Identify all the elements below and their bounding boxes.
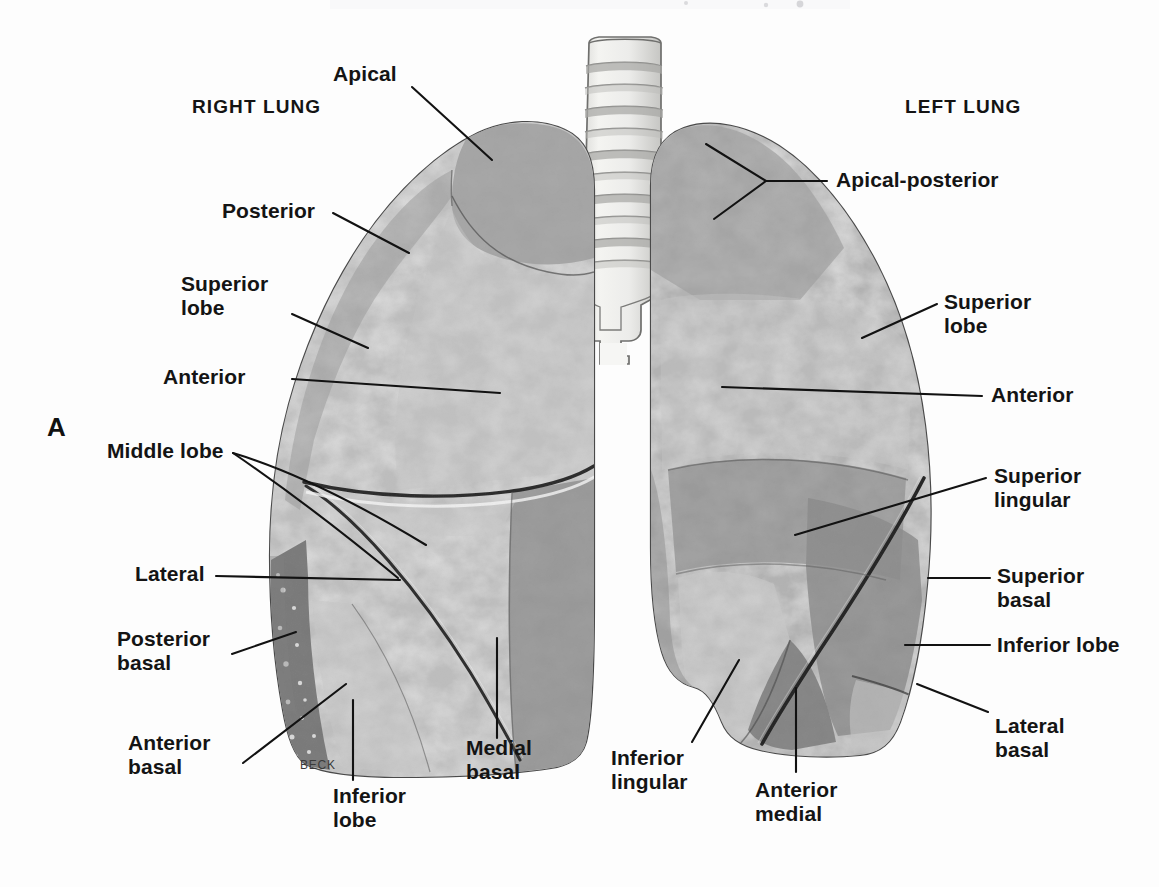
label-lateral-basal: Lateral basal	[995, 714, 1065, 763]
label-inferior-lobe-left: Inferior lobe	[997, 633, 1120, 657]
label-inferior-lobe-right: Inferior lobe	[333, 784, 406, 833]
label-superior-basal: Superior basal	[997, 564, 1084, 613]
cropped-header-text	[330, 0, 850, 9]
label-superior-lingular: Superior lingular	[994, 464, 1081, 513]
label-apical-posterior: Apical-posterior	[836, 168, 999, 192]
label-anterior-left: Anterior	[991, 383, 1073, 407]
label-anterior-basal: Anterior basal	[128, 731, 210, 780]
artist-signature: BECK	[300, 758, 336, 772]
panel-letter-a: A	[47, 412, 66, 443]
label-middle-lobe: Middle lobe	[107, 439, 224, 463]
label-anterior-medial: Anterior medial	[755, 778, 837, 827]
label-medial-basal: Medial basal	[466, 736, 532, 785]
label-posterior-basal: Posterior basal	[117, 627, 210, 676]
label-lateral: Lateral	[135, 562, 205, 586]
label-superior-lobe-left: Superior lobe	[944, 290, 1031, 339]
heading-left-lung: LEFT LUNG	[905, 96, 1022, 118]
label-anterior-right: Anterior	[163, 365, 245, 389]
label-posterior: Posterior	[222, 199, 315, 223]
label-apical: Apical	[333, 62, 397, 86]
heading-right-lung: RIGHT LUNG	[192, 96, 321, 118]
label-inferior-lingular: Inferior lingular	[611, 746, 688, 795]
label-superior-lobe-right: Superior lobe	[181, 272, 268, 321]
lung-anatomy-figure: RIGHT LUNG LEFT LUNG A BECK Apical Poste…	[0, 0, 1159, 887]
